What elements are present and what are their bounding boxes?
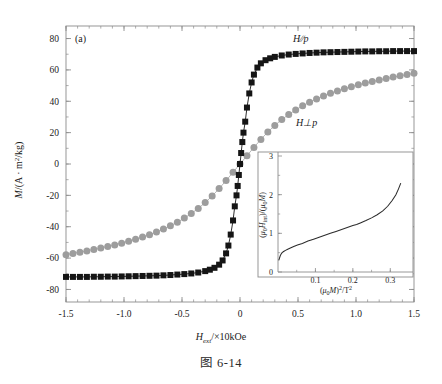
data-point-parallel <box>236 172 242 178</box>
data-point-parallel <box>286 52 292 58</box>
data-point-perpendicular <box>90 246 97 253</box>
data-point-perpendicular <box>230 169 237 176</box>
data-point-perpendicular <box>327 90 334 97</box>
data-point-perpendicular <box>313 95 320 102</box>
y-tick-label: 40 <box>50 97 60 107</box>
y-tick-label: 60 <box>50 65 60 75</box>
data-point-perpendicular <box>341 85 348 92</box>
data-point-parallel <box>390 48 396 54</box>
x-tick-label: -1.0 <box>116 309 131 319</box>
data-point-perpendicular <box>83 247 90 254</box>
data-point-parallel <box>160 272 166 278</box>
data-point-parallel <box>70 274 76 280</box>
y-tick-label: 0 <box>54 159 59 169</box>
data-point-parallel <box>153 273 159 279</box>
inset-y-tick-label: 0 <box>269 268 273 277</box>
data-point-perpendicular <box>292 106 299 113</box>
data-point-parallel <box>240 130 246 136</box>
data-point-perpendicular <box>118 240 125 247</box>
data-point-perpendicular <box>209 192 216 199</box>
data-point-parallel <box>348 49 354 55</box>
data-point-perpendicular <box>355 81 362 88</box>
data-point-perpendicular <box>195 205 202 212</box>
magnetization-chart: -1.5-1.0-0.500.51.01.5 806040200-20-40-6… <box>0 0 442 350</box>
data-point-parallel <box>369 48 375 54</box>
data-point-parallel <box>188 270 194 276</box>
data-point-parallel <box>300 50 306 56</box>
data-point-parallel <box>376 48 382 54</box>
inset-y-tick-label: 1 <box>269 229 273 238</box>
data-point-perpendicular <box>369 78 376 85</box>
y-axis-label: M/(A · m2/kg) <box>13 142 26 200</box>
data-point-parallel <box>341 49 347 55</box>
y-tick-label: -40 <box>46 222 59 232</box>
data-point-perpendicular <box>111 241 118 248</box>
data-point-parallel <box>334 49 340 55</box>
data-point-parallel <box>237 161 243 167</box>
inset-x-axis-label: (μ0M)2/T2 <box>320 285 352 296</box>
series-label-parallel: H∕∕p <box>292 33 309 44</box>
inset-x-tick-label: 0.1 <box>310 276 320 285</box>
data-point-perpendicular <box>139 234 146 241</box>
data-point-perpendicular <box>223 177 230 184</box>
data-point-perpendicular <box>411 70 418 77</box>
data-point-perpendicular <box>334 87 341 94</box>
data-point-parallel <box>411 48 417 54</box>
y-tick-label: -80 <box>46 285 59 295</box>
y-tick-label: 20 <box>50 128 60 138</box>
data-point-perpendicular <box>404 71 411 78</box>
data-point-parallel <box>84 274 90 280</box>
data-point-perpendicular <box>174 219 181 226</box>
data-point-perpendicular <box>216 185 223 192</box>
data-point-parallel <box>228 232 234 238</box>
data-point-parallel <box>232 203 238 209</box>
inset-y-tick-label: 3 <box>269 152 273 161</box>
x-tick-label: 1.5 <box>408 309 420 319</box>
data-point-parallel <box>195 270 201 276</box>
data-point-parallel <box>244 105 250 111</box>
data-point-parallel <box>223 250 229 256</box>
x-tick-label: -1.5 <box>58 309 73 319</box>
data-point-perpendicular <box>63 251 70 258</box>
data-point-parallel <box>251 72 257 78</box>
x-tick-label: -0.5 <box>174 309 189 319</box>
data-point-perpendicular <box>320 92 327 99</box>
inset-frame <box>258 152 413 277</box>
data-point-parallel <box>167 272 173 278</box>
data-point-parallel <box>98 274 104 280</box>
data-point-parallel <box>140 273 146 279</box>
data-point-parallel <box>279 52 285 58</box>
data-point-parallel <box>321 49 327 55</box>
data-point-perpendicular <box>181 215 188 222</box>
data-point-parallel <box>272 54 278 60</box>
data-point-perpendicular <box>132 236 139 243</box>
series-label-perpendicular: H⊥p <box>295 117 317 128</box>
data-point-perpendicular <box>250 144 257 151</box>
y-tick-label: 80 <box>50 34 60 44</box>
inset-x-tick-label: 0.2 <box>348 276 358 285</box>
data-point-perpendicular <box>306 99 313 106</box>
data-point-perpendicular <box>69 250 76 257</box>
data-point-parallel <box>362 48 368 54</box>
data-point-parallel <box>91 274 97 280</box>
data-point-parallel <box>63 274 69 280</box>
data-point-perpendicular <box>362 80 369 87</box>
panel-label: (a) <box>75 33 86 45</box>
data-point-parallel <box>119 273 125 279</box>
data-point-parallel <box>355 49 361 55</box>
data-point-parallel <box>327 49 333 55</box>
y-tick-label: -20 <box>46 191 59 201</box>
data-point-perpendicular <box>278 116 285 123</box>
x-tick-label: 1.0 <box>350 309 362 319</box>
data-point-parallel <box>77 274 83 280</box>
data-point-parallel <box>235 183 241 189</box>
data-point-perpendicular <box>76 249 83 256</box>
data-point-perpendicular <box>285 111 292 118</box>
data-point-parallel <box>404 48 410 54</box>
x-axis-label-rest: /×10kOe <box>211 331 247 342</box>
data-point-perpendicular <box>97 245 104 252</box>
data-point-parallel <box>105 274 111 280</box>
data-point-perpendicular <box>167 222 174 229</box>
data-point-perpendicular <box>153 229 160 236</box>
data-point-parallel <box>242 119 248 125</box>
